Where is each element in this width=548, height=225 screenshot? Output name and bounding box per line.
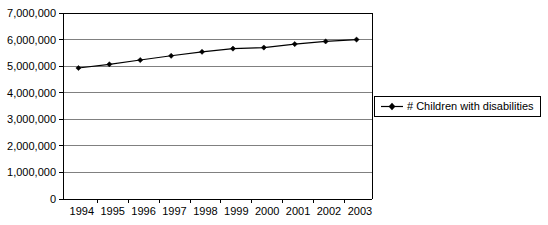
x-axis-label-1995: 1995	[100, 205, 124, 217]
legend-label: # Children with disabilities	[407, 100, 534, 112]
y-axis-label-3000000: 3,000,000	[7, 113, 56, 125]
x-axis-label-2001: 2001	[286, 205, 310, 217]
x-axis-label-1994: 1994	[70, 205, 94, 217]
chart-canvas: 7,000,000 6,000,000 5,000,000 4,000,000 …	[0, 0, 548, 225]
y-axis-label-2000000: 2,000,000	[7, 140, 56, 152]
line-chart: 7,000,000 6,000,000 5,000,000 4,000,000 …	[0, 0, 548, 225]
y-axis-label-4000000: 4,000,000	[7, 87, 56, 99]
y-axis-label-7000000: 7,000,000	[7, 7, 56, 19]
x-axis-label-2003: 2003	[348, 205, 372, 217]
x-axis-label-1997: 1997	[162, 205, 186, 217]
y-axis-label-6000000: 6,000,000	[7, 34, 56, 46]
legend: # Children with disabilities	[375, 97, 541, 117]
x-axis-label-2002: 2002	[317, 205, 341, 217]
x-axis-label-2000: 2000	[255, 205, 279, 217]
y-axis-label-0: 0	[50, 193, 56, 205]
y-axis-label-1000000: 1,000,000	[7, 166, 56, 178]
x-axis-label-1998: 1998	[193, 205, 217, 217]
y-axis-label-5000000: 5,000,000	[7, 60, 56, 72]
x-axis-label-1999: 1999	[224, 205, 248, 217]
x-axis-label-1996: 1996	[131, 205, 155, 217]
